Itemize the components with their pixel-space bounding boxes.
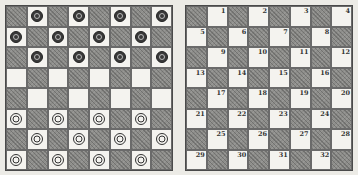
light-square: 19 — [290, 88, 311, 109]
dark-square — [68, 68, 89, 89]
square-number: 10 — [258, 49, 267, 56]
dark-square — [89, 129, 110, 150]
light-square — [89, 27, 110, 48]
black-checker-piece — [31, 51, 43, 63]
light-square — [6, 150, 27, 171]
black-checker-piece — [73, 51, 85, 63]
square-number: 27 — [299, 131, 308, 138]
black-checker-piece — [114, 51, 126, 63]
dark-square — [290, 68, 311, 89]
dark-square — [110, 150, 131, 171]
dark-square — [248, 68, 269, 89]
light-square: 28 — [331, 129, 352, 150]
black-checker-piece — [31, 10, 43, 22]
checkerboard-numbered-squares: 1234567891011121314151617181920212223242… — [185, 5, 353, 171]
square-number: 26 — [258, 131, 267, 138]
square-number: 25 — [216, 131, 225, 138]
light-square — [68, 47, 89, 68]
dark-square — [186, 6, 207, 27]
light-square: 6 — [228, 27, 249, 48]
light-square: 4 — [331, 6, 352, 27]
dark-square — [207, 150, 228, 171]
light-square — [6, 109, 27, 130]
dark-square — [27, 27, 48, 48]
dark-square — [151, 109, 172, 130]
light-square — [48, 150, 69, 171]
dark-square — [207, 109, 228, 130]
square-number: 32 — [320, 152, 329, 159]
square-number: 28 — [341, 131, 350, 138]
light-square: 10 — [248, 47, 269, 68]
light-square — [89, 68, 110, 89]
square-number: 24 — [320, 111, 329, 118]
square-number: 22 — [237, 111, 246, 118]
dark-square — [27, 68, 48, 89]
dark-square — [131, 6, 152, 27]
black-checker-piece — [10, 31, 22, 43]
light-square: 18 — [248, 88, 269, 109]
white-checker-piece — [93, 154, 105, 166]
light-square — [27, 6, 48, 27]
light-square: 7 — [269, 27, 290, 48]
dark-square — [331, 68, 352, 89]
white-checker-piece — [31, 133, 43, 145]
dark-square — [186, 88, 207, 109]
square-number: 11 — [299, 49, 308, 56]
dark-square — [131, 88, 152, 109]
white-checker-piece — [73, 133, 85, 145]
square-number: 14 — [237, 70, 246, 77]
dark-square — [110, 68, 131, 89]
square-number: 29 — [196, 152, 205, 159]
light-square: 17 — [207, 88, 228, 109]
white-checker-piece — [52, 154, 64, 166]
light-square — [68, 88, 89, 109]
black-checker-piece — [52, 31, 64, 43]
white-checker-piece — [52, 113, 64, 125]
dark-square — [68, 150, 89, 171]
dark-square — [290, 150, 311, 171]
black-checker-piece — [93, 31, 105, 43]
dark-square — [151, 150, 172, 171]
dark-square — [269, 47, 290, 68]
light-square: 21 — [186, 109, 207, 130]
square-number: 5 — [200, 29, 205, 36]
light-square: 14 — [228, 68, 249, 89]
dark-square — [131, 129, 152, 150]
dark-square — [48, 47, 69, 68]
light-square: 8 — [311, 27, 332, 48]
dark-square — [186, 47, 207, 68]
light-square — [110, 129, 131, 150]
dark-square — [248, 27, 269, 48]
light-square: 12 — [331, 47, 352, 68]
dark-square — [207, 27, 228, 48]
black-checker-piece — [135, 31, 147, 43]
light-square: 24 — [311, 109, 332, 130]
light-square: 29 — [186, 150, 207, 171]
dark-square — [290, 27, 311, 48]
dark-square — [228, 6, 249, 27]
dark-square — [27, 109, 48, 130]
light-square: 2 — [248, 6, 269, 27]
square-number: 18 — [258, 90, 267, 97]
light-square — [48, 109, 69, 130]
light-square: 26 — [248, 129, 269, 150]
white-checker-piece — [93, 113, 105, 125]
light-square — [68, 6, 89, 27]
dark-square — [311, 47, 332, 68]
white-checker-piece — [114, 133, 126, 145]
light-square: 16 — [311, 68, 332, 89]
square-number: 7 — [283, 29, 288, 36]
light-square — [131, 27, 152, 48]
dark-square — [186, 129, 207, 150]
light-square — [151, 6, 172, 27]
white-checker-piece — [156, 133, 168, 145]
dark-square — [89, 47, 110, 68]
light-square — [110, 88, 131, 109]
light-square: 32 — [311, 150, 332, 171]
dark-square — [6, 129, 27, 150]
light-square — [131, 68, 152, 89]
light-square: 5 — [186, 27, 207, 48]
square-number: 23 — [279, 111, 288, 118]
dark-square — [228, 129, 249, 150]
square-number: 20 — [341, 90, 350, 97]
